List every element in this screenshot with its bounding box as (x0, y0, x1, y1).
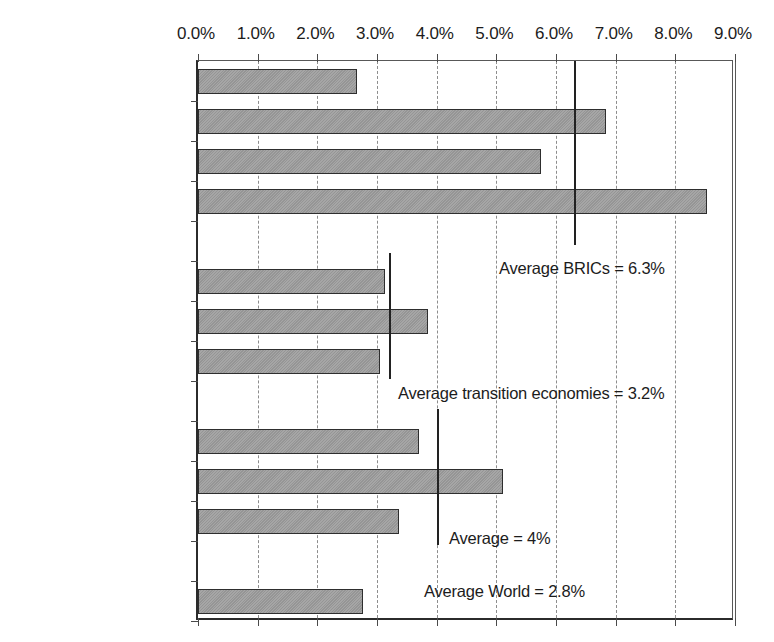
x-tick-label-4: 4.0% (416, 24, 454, 44)
top-tick-6 (556, 54, 557, 62)
bar (198, 189, 707, 214)
average-label-brics: Average BRICs = 6.3% (499, 259, 665, 278)
top-tick-3 (377, 54, 378, 62)
bottom-tick-4 (437, 618, 438, 626)
average-line-transition (389, 253, 391, 379)
average-label-overall: Average = 4% (449, 529, 550, 548)
top-tick-4 (437, 54, 438, 62)
row-tick-0 (191, 101, 198, 102)
x-tick-label-5: 5.0% (475, 24, 513, 44)
x-tick-label-1: 1.0% (237, 24, 275, 44)
x-tick-label-6: 6.0% (535, 24, 573, 44)
bar (198, 149, 541, 174)
row-tick-3 (191, 221, 198, 222)
average-line-brics (574, 61, 576, 245)
x-tick-label-0: 0.0% (177, 24, 215, 44)
bar (198, 349, 380, 374)
bottom-tick-7 (616, 618, 617, 626)
x-tick-label-3: 3.0% (356, 24, 394, 44)
bottom-tick-3 (377, 618, 378, 626)
top-tick-0 (198, 54, 199, 62)
top-tick-7 (616, 54, 617, 62)
top-tick-5 (496, 54, 497, 62)
row-tick-7 (191, 381, 198, 382)
row-tick-13 (191, 621, 198, 622)
average-label-world: Average World = 2.8% (424, 582, 585, 601)
top-tick-8 (675, 54, 676, 62)
bar (198, 509, 399, 534)
top-tick-2 (317, 54, 318, 62)
x-tick-label-9: 9.0% (714, 24, 752, 44)
bottom-tick-2 (317, 618, 318, 626)
bar (198, 109, 606, 134)
bar (198, 309, 428, 334)
row-tick-8 (191, 421, 198, 422)
gridline-6 (556, 61, 557, 618)
top-tick-9 (735, 54, 736, 62)
bottom-tick-0 (198, 618, 199, 626)
bottom-tick-9 (735, 618, 736, 626)
bar-chart: 0.0%1.0%2.0%3.0%4.0%5.0%6.0%7.0%8.0%9.0%… (0, 0, 774, 642)
top-tick-1 (258, 54, 259, 62)
x-tick-label-8: 8.0% (654, 24, 692, 44)
row-tick-10 (191, 501, 198, 502)
row-tick-1 (191, 141, 198, 142)
row-tick-5 (191, 301, 198, 302)
gridline-1 (258, 61, 259, 618)
row-tick-9 (191, 461, 198, 462)
bar (198, 269, 385, 294)
bar (198, 469, 503, 494)
bottom-tick-8 (675, 618, 676, 626)
bottom-tick-6 (556, 618, 557, 626)
bottom-tick-5 (496, 618, 497, 626)
gridline-8 (675, 61, 676, 618)
gridline-2 (317, 61, 318, 618)
plot-area: Average BRICs = 6.3%Average transition e… (196, 60, 733, 620)
row-tick-12 (191, 581, 198, 582)
bar (198, 429, 419, 454)
bottom-tick-1 (258, 618, 259, 626)
bar (198, 69, 357, 94)
row-tick-11 (191, 541, 198, 542)
row-tick-2 (191, 181, 198, 182)
x-tick-label-7: 7.0% (595, 24, 633, 44)
gridline-3 (377, 61, 378, 618)
average-line-overall (437, 409, 439, 545)
gridline-7 (616, 61, 617, 618)
row-tick-6 (191, 341, 198, 342)
average-label-transition: Average transition economies = 3.2% (398, 384, 664, 403)
x-tick-label-2: 2.0% (296, 24, 334, 44)
gridline-9 (735, 61, 736, 618)
row-tick-4 (191, 261, 198, 262)
bar (198, 589, 363, 614)
